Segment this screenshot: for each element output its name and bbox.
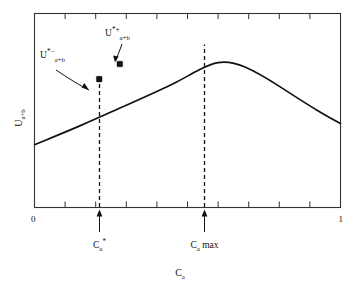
data-point-u-star-plus <box>117 61 123 67</box>
annotation-arrow-u-star-plus <box>113 44 122 63</box>
annotation-arrow-u-star-minus <box>56 70 89 90</box>
x-axis-ticks-bottom <box>35 200 341 207</box>
data-point-u-star-minus <box>96 76 102 82</box>
x-annotation-label-ca-max: Ca max <box>190 240 218 252</box>
y-axis-title: Ua+b <box>13 109 26 127</box>
label-u-star-minus: U*−a+b <box>40 48 65 62</box>
x-annotation-label-ca-star: Ca* <box>93 238 106 252</box>
plot-frame <box>35 14 341 208</box>
x-annotation-arrow-ca-star <box>97 210 103 233</box>
x-axis-title: Ca <box>175 267 185 280</box>
x-axis-label-end: 1 <box>339 214 344 224</box>
x-axis-label-start: 0 <box>31 214 36 224</box>
label-u-star-plus: U*+a+b <box>105 26 130 40</box>
chart-figure: U*−a+b U*+a+b 0 1 Ca* Ca max Ca <box>0 0 356 287</box>
chart-svg: U*−a+b U*+a+b 0 1 Ca* Ca max Ca <box>0 0 356 287</box>
x-annotation-arrow-ca-max <box>202 210 208 233</box>
x-axis-ticks-top <box>65 14 310 20</box>
utility-curve <box>35 62 341 145</box>
